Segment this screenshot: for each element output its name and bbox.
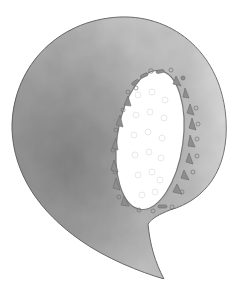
watercolor-letter-q	[0, 0, 236, 292]
